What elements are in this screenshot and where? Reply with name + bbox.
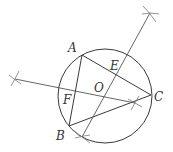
label-A: A xyxy=(67,41,77,55)
segment-BC xyxy=(69,95,151,126)
arc-mark-bottom xyxy=(74,131,90,143)
label-O: O xyxy=(94,81,104,95)
arc-mark-top-right xyxy=(142,6,159,22)
label-C: C xyxy=(154,90,163,104)
arc-mark-left xyxy=(9,71,21,86)
label-B: B xyxy=(55,129,65,143)
label-E: E xyxy=(109,59,119,73)
perpendicular-bisector-AB xyxy=(15,79,135,103)
circumcircle xyxy=(58,49,152,143)
perpendicular-bisector-AC xyxy=(82,13,150,137)
label-F: F xyxy=(62,93,72,107)
circumcircle-diagram: A E O F C B xyxy=(0,0,173,152)
